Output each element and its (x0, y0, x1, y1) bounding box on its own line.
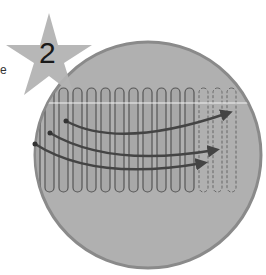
diagram-stage: 2 e (0, 0, 266, 275)
step-number: 2 (39, 38, 56, 68)
edge-letter: e (0, 63, 7, 77)
